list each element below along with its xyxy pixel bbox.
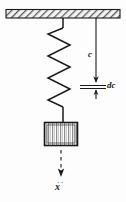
diagram-canvas xyxy=(0,0,126,202)
mass-body xyxy=(45,123,78,146)
dimension-dc xyxy=(80,86,106,100)
figure-container: c dc ·· x xyxy=(0,0,126,202)
label-c: c xyxy=(88,50,92,59)
ceiling-support xyxy=(6,10,120,19)
label-dc: dc xyxy=(107,81,116,90)
ceiling-hatched-bar xyxy=(6,10,120,19)
spring-coil xyxy=(48,28,70,107)
label-displacement-x: x xyxy=(55,182,60,192)
spring xyxy=(48,18,70,122)
mass-block xyxy=(45,123,78,146)
